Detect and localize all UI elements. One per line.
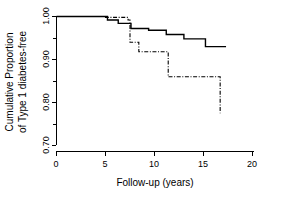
x-tick-label-15: 15 (198, 159, 208, 169)
y-tick-label-0.80: 0.80 (41, 93, 51, 111)
kaplan-meier-chart: 1.00 0.90 0.80 0.70 0 5 10 15 20 Follow-… (0, 0, 282, 198)
x-tick-label-5: 5 (102, 159, 107, 169)
x-axis-tick-labels: 0 5 10 15 20 (53, 159, 257, 169)
series-dash-dot-curve (57, 17, 221, 114)
chart-canvas: 1.00 0.90 0.80 0.70 0 5 10 15 20 Follow-… (0, 0, 282, 198)
series-group (57, 17, 227, 114)
y-tick-label-0.70: 0.70 (41, 136, 51, 154)
y-tick-label-0.90: 0.90 (41, 50, 51, 68)
x-tick-label-10: 10 (149, 159, 159, 169)
y-axis-title-line-1: Cumulative Proportion (4, 33, 15, 132)
x-tick-label-0: 0 (53, 159, 58, 169)
series-solid-curve (57, 17, 227, 47)
axes-group (56, 16, 254, 152)
x-axis-title: Follow-up (years) (116, 177, 193, 188)
y-tick-label-1.00: 1.00 (41, 7, 51, 25)
y-axis-tick-labels: 1.00 0.90 0.80 0.70 (41, 7, 51, 154)
x-axis-ticks (57, 152, 253, 156)
y-axis-ticks-minor (53, 38, 56, 124)
y-axis-title-line-2: of Type 1 diabetes-free (17, 31, 28, 134)
x-tick-label-20: 20 (247, 159, 257, 169)
